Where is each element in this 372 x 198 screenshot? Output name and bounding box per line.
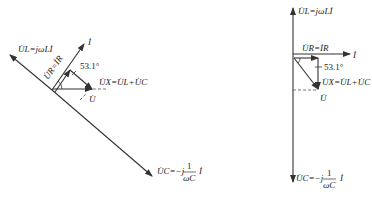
uc-frac-den: ωC [323,180,336,190]
ux-phasor-line [70,70,92,89]
uc-suffix: İ [198,166,203,176]
uc-label: U̇C=−j [157,166,185,176]
u-label: U̇ [320,93,327,103]
left-phasor-diagram: U̇L=jωLİ İ U̇R=İR 53.1° U̇X=U̇L+U̇C U̇ U… [10,37,203,183]
uc-phasor-line [52,90,152,176]
ux-label: U̇X=U̇L+U̇C [99,77,148,87]
uc-label: U̇C=−j [296,173,324,183]
angle-arc [298,58,300,63]
u-phasor-line [294,58,318,89]
angle-label: 53.1° [324,62,344,72]
ux-label: U̇X=U̇L+U̇C [322,77,371,87]
phasor-diagrams: U̇L=jωLİ İ U̇R=İR 53.1° U̇X=U̇L+U̇C U̇ U… [0,0,372,198]
current-label: İ [87,37,92,47]
uc-frac-num: 1 [187,161,192,171]
ur-label: U̇R=İR [302,43,329,53]
uc-frac-num: 1 [327,168,332,178]
ul-label: U̇L=jωLİ [298,6,333,16]
ul-label: U̇L=jωLİ [18,44,53,54]
uc-suffix: İ [339,173,344,183]
dashed-tick [80,94,86,100]
current-label: İ [352,50,357,60]
angle-label: 53.1° [80,61,100,71]
right-phasor-diagram: U̇L=jωLİ İ U̇R=İR 53.1° U̇X=U̇L+U̇C U̇ U… [293,6,371,190]
u-label: U̇ [89,94,96,104]
uc-frac-den: ωC [183,173,196,183]
